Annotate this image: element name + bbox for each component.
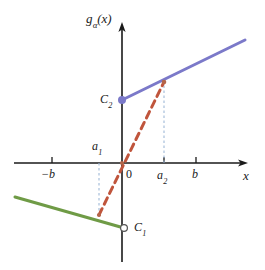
upper-branch-line: [122, 40, 245, 100]
origin-label: 0: [126, 168, 132, 180]
negative-b-tick-label: −b: [41, 168, 55, 180]
x-axis-ticks: [52, 157, 196, 163]
y-axis-label-subscript: α: [93, 20, 98, 30]
c2-label-subscript: 2: [108, 101, 112, 110]
x-axis-group: [14, 159, 248, 166]
plot-canvas: [0, 0, 265, 270]
y-axis-label-base: g: [86, 11, 93, 26]
a2-tick-label: a2: [157, 169, 167, 185]
c1-label: C1: [134, 221, 146, 237]
function-plot-figure: gα(x) x C2 C1 a1 a2 b −b 0: [0, 0, 265, 270]
y-axis-label: gα(x): [86, 12, 112, 28]
c1-label-base: C: [134, 220, 142, 234]
c1-label-subscript: 1: [142, 229, 146, 238]
lower-branch-line: [15, 197, 124, 228]
a1-node-dot: [97, 213, 101, 217]
origin-node-dot: [120, 161, 124, 165]
y-axis-label-argument: (x): [97, 11, 111, 26]
c1-hollow-marker: [121, 225, 128, 232]
c2-filled-marker: [118, 96, 126, 104]
b-tick-label: b: [192, 168, 198, 180]
a1-label-subscript: 1: [98, 148, 102, 157]
a2-node-dot: [162, 80, 167, 85]
x-axis-label: x: [243, 169, 249, 182]
a2-label-subscript: 2: [163, 177, 167, 186]
a1-tick-label: a1: [92, 140, 102, 156]
c2-label-base: C: [100, 92, 108, 106]
c2-label: C2: [100, 93, 112, 109]
